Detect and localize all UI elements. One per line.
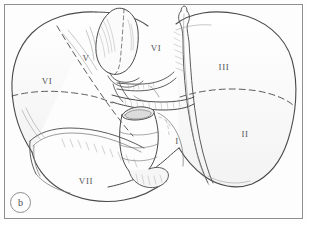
segment-label-vi-upper: VI — [151, 43, 162, 53]
segment-label-ii: II — [241, 129, 248, 139]
gallbladder — [96, 8, 143, 87]
segment-label-iii: III — [219, 62, 230, 72]
hatch-vii — [62, 139, 137, 167]
segment-label-vii: VII — [79, 176, 93, 186]
posterior-lobe-outline — [30, 128, 166, 202]
liver-illustration — [0, 0, 309, 225]
segment-label-vi-left: VI — [42, 76, 53, 86]
segment-label-v: V — [82, 53, 89, 63]
liver-anatomy-figure: VI V VI III II I VII b — [0, 0, 309, 225]
panel-letter-badge: b — [10, 192, 31, 213]
inferior-vena-cava-stump — [120, 107, 169, 188]
segment-label-i: I — [175, 136, 179, 146]
